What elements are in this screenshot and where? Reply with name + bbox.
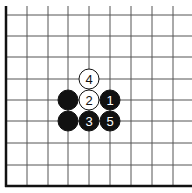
stone-circle — [58, 111, 78, 131]
move-number-label: 3 — [85, 114, 92, 129]
move-number-label: 1 — [106, 93, 113, 108]
stones: 42135 — [58, 69, 120, 131]
stone-circle — [58, 90, 78, 110]
black-stone — [58, 111, 78, 131]
white-stone: 4 — [79, 69, 99, 89]
move-number-label: 5 — [106, 114, 113, 129]
black-stone — [58, 90, 78, 110]
move-number-label: 4 — [85, 72, 92, 87]
go-board: 42135 — [0, 0, 192, 193]
white-stone: 2 — [79, 90, 99, 110]
grid-lines — [6, 6, 192, 186]
black-stone: 3 — [79, 111, 99, 131]
move-number-label: 2 — [85, 93, 92, 108]
black-stone: 1 — [100, 90, 120, 110]
black-stone: 5 — [100, 111, 120, 131]
